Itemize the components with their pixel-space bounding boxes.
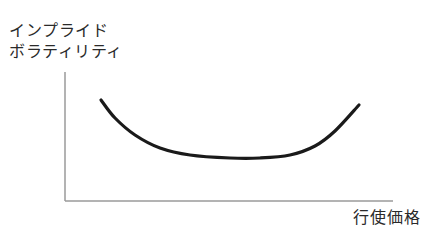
volatility-smile-curve	[101, 100, 359, 158]
volatility-smile-diagram: インプライド ボラティリティ 行使価格	[0, 0, 448, 242]
x-axis-label: 行使価格	[353, 208, 421, 228]
plot-area	[0, 0, 448, 242]
